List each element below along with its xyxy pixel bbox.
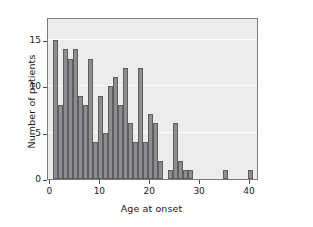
histogram-bar: [188, 170, 193, 179]
x-tick-mark: [149, 180, 150, 184]
x-tick-mark: [49, 180, 50, 184]
x-tick-label: 10: [84, 187, 114, 196]
plot-area: [47, 18, 258, 180]
y-tick-label: 10: [1, 82, 41, 91]
y-tick-label: 15: [1, 36, 41, 45]
x-tick-mark: [249, 180, 250, 184]
x-tick-mark: [199, 180, 200, 184]
bar-series: [48, 19, 257, 179]
y-tick-label: 0: [1, 175, 41, 184]
x-tick-label: 40: [234, 187, 264, 196]
x-tick-label: 30: [184, 187, 214, 196]
x-tick-label: 0: [34, 187, 64, 196]
histogram-bar: [248, 170, 253, 179]
y-tick-label: 5: [1, 129, 41, 138]
histogram-figure: Number of patients Age at onset 051015 0…: [0, 0, 313, 227]
y-tick-mark: [43, 180, 47, 181]
histogram-bar: [158, 161, 163, 180]
y-axis-label: Number of patients: [26, 27, 37, 177]
x-tick-mark: [99, 180, 100, 184]
x-axis-label: Age at onset: [45, 203, 258, 214]
histogram-bar: [223, 170, 228, 179]
x-tick-label: 20: [134, 187, 164, 196]
